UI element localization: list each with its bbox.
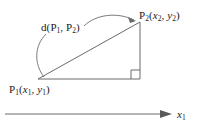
p2-paren-close: ) [176,9,180,21]
point-p2-label: P2(x2, y2) [139,10,180,22]
x-axis-label: x1 [177,109,186,121]
x-axis-index: 1 [182,113,186,122]
distance-label: d(P1, P2) [41,22,80,34]
leader-curve-to-hypotenuse [37,34,46,77]
x-axis-arrowhead-icon [160,110,172,118]
distance-formula-figure: P2(x2, y2) P1(x1, y1) d(P1, P2) x1 [0,0,203,128]
leader-arrowhead-icon [128,17,136,23]
leader-curve-to-p2 [84,15,134,26]
p1-paren-close: ) [46,83,50,95]
right-angle-marker-icon [131,70,140,79]
point-p1-label: P1(x1, y1) [9,84,50,96]
distance-paren-close: ) [76,21,80,33]
